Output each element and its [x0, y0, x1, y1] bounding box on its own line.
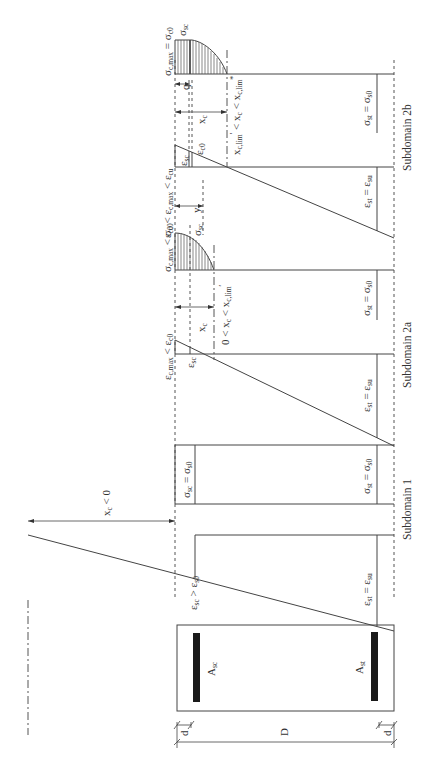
label-2b-eps-c0: εc0: [193, 143, 207, 155]
label-2b-eps-sc: εsc: [177, 154, 191, 166]
stress-strain-diagram: Asc Ast d: [0, 0, 432, 767]
dim-xc-negative: [28, 519, 175, 523]
label-2a-sigma-st: σst = σs0: [360, 280, 374, 316]
label-2b-sigma-sc: σsc: [176, 23, 190, 36]
label-section-d-bottom: d: [381, 730, 393, 736]
label-2a-eps-cmax: εc,max < εc0: [161, 334, 175, 380]
label-1-eps-st: εst = εsu: [360, 573, 374, 606]
label-2a-sigma-sc: σsc: [191, 223, 205, 236]
label-2a-xc: xc: [195, 323, 209, 333]
screen-layer: [28, 40, 397, 748]
label-2a-sigma-cmax: σc,max < σc0: [161, 223, 175, 272]
label-1-sigma-st: σst = σs0: [360, 458, 374, 494]
label-1-eps-sc: εsc > εs0: [187, 576, 201, 610]
label-y: y: [190, 207, 202, 213]
label-2b-range: xc,lim′ < xc < xc,lim*: [229, 76, 244, 155]
caption-subdomain-1: Subdomain 1: [401, 479, 413, 540]
label-section-asc: Asc: [205, 661, 219, 676]
label-section-d-top: d: [178, 730, 190, 736]
label-2a-eps-sc: εsc: [184, 356, 198, 368]
label-section-D: D: [278, 728, 290, 736]
label-2b-sigma-st: σst = σs0: [360, 90, 374, 126]
caption-subdomain-2b: Subdomain 2b: [401, 104, 413, 171]
label-2a-eps-st: εst = εsu: [360, 379, 374, 412]
label-2b-sigma-cmax: σc,max = σc0: [161, 27, 175, 76]
caption-subdomain-2a: Subdomain 2a: [401, 322, 413, 388]
label-1-sigma-sc: σsc = σs0: [180, 461, 194, 498]
label-2a-range: 0 < xc < xc,lim′: [218, 285, 233, 346]
label-section-ast: Ast: [353, 660, 367, 674]
label-2b-xc: xc: [195, 115, 209, 125]
label-1-xc-negative: xc < 0: [100, 489, 114, 516]
subdomain-1-strain-diagram: [28, 535, 394, 631]
label-q: q: [179, 84, 191, 90]
label-2b-eps-st: εst = εsu: [360, 175, 374, 208]
compression-steel-bar: [193, 633, 200, 702]
tension-steel-bar: [371, 632, 378, 701]
